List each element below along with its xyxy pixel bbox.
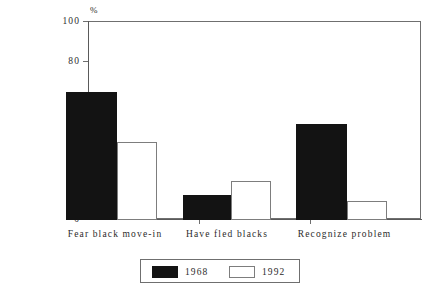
bar-1992-recognize-problem xyxy=(347,201,387,220)
y-tick-label-80: 80 xyxy=(46,56,80,66)
bar-1968-fear-black-move-in xyxy=(66,92,117,220)
y-tick-label-100: 100 xyxy=(46,16,80,26)
x-category-label-recognize-problem: Recognize problem xyxy=(262,229,427,239)
legend-swatch-1992-icon xyxy=(229,266,255,278)
bar-1992-fear-black-move-in xyxy=(117,142,157,220)
legend-swatch-1968-icon xyxy=(152,266,178,278)
legend-entry-1992: 1992 xyxy=(229,265,285,278)
bar-chart: % 0 20 40 60 80 100 Fear black move-in H… xyxy=(0,0,432,293)
y-tick-100 xyxy=(83,21,88,22)
bar-1992-have-fled-blacks xyxy=(231,181,271,220)
legend-label-1992: 1992 xyxy=(262,266,285,278)
y-tick-80 xyxy=(83,61,88,62)
legend-entry-1968: 1968 xyxy=(152,265,208,278)
bar-1968-have-fled-blacks xyxy=(183,195,231,220)
y-axis-unit-label: % xyxy=(90,5,98,15)
legend: 1968 1992 xyxy=(140,259,300,283)
bar-1968-recognize-problem xyxy=(296,124,347,220)
legend-label-1968: 1968 xyxy=(185,266,208,278)
